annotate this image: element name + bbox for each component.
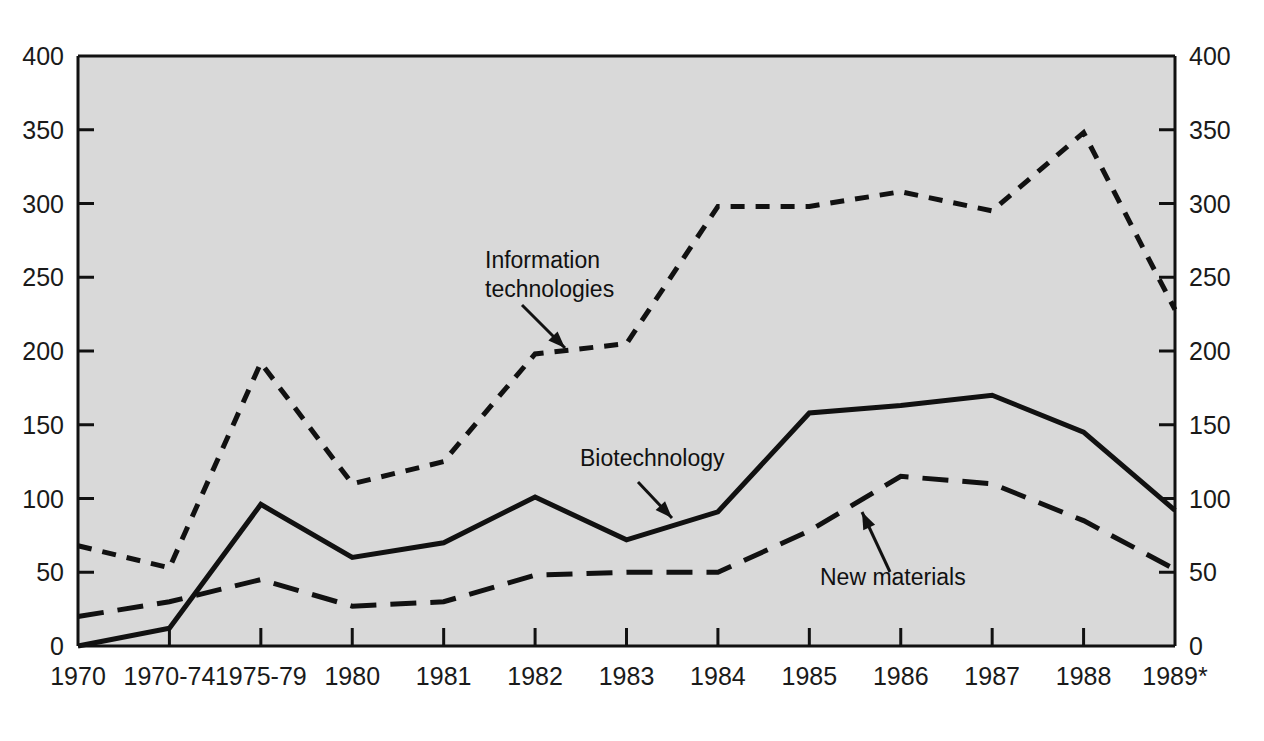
x-tick-label: 1981 — [416, 662, 472, 690]
left-y-tick-label: 350 — [22, 116, 64, 144]
line-chart: 050100150200250300350400 050100150200250… — [0, 0, 1264, 741]
right-y-tick-label: 150 — [1189, 411, 1231, 439]
left-y-tick-label: 300 — [22, 190, 64, 218]
right-y-tick-label: 250 — [1189, 263, 1231, 291]
annotation-label: New materials — [820, 564, 966, 590]
x-tick-label: 1985 — [782, 662, 838, 690]
left-y-tick-labels: 050100150200250300350400 — [22, 42, 64, 660]
x-tick-label: 1986 — [873, 662, 929, 690]
annotation-label: Information — [485, 247, 600, 273]
right-y-tick-labels: 050100150200250300350400 — [1189, 42, 1231, 660]
left-y-tick-label: 150 — [22, 411, 64, 439]
chart-figure: 050100150200250300350400 050100150200250… — [0, 0, 1264, 741]
right-y-tick-label: 200 — [1189, 337, 1231, 365]
x-tick-label: 1970 — [50, 662, 106, 690]
x-tick-label: 1982 — [507, 662, 563, 690]
right-y-tick-label: 400 — [1189, 42, 1231, 70]
x-tick-label: 1987 — [964, 662, 1020, 690]
plot-area-background — [78, 56, 1175, 646]
x-tick-labels: 19701970-741975-791980198119821983198419… — [50, 662, 1208, 690]
left-y-tick-label: 200 — [22, 337, 64, 365]
right-y-tick-label: 300 — [1189, 190, 1231, 218]
left-y-tick-label: 50 — [36, 558, 64, 586]
x-tick-label: 1970-74 — [124, 662, 216, 690]
left-y-tick-label: 250 — [22, 263, 64, 291]
left-y-tick-label: 0 — [50, 632, 64, 660]
x-tick-label: 1975-79 — [215, 662, 307, 690]
left-y-tick-label: 100 — [22, 485, 64, 513]
right-y-tick-label: 0 — [1189, 632, 1203, 660]
x-tick-label: 1983 — [599, 662, 655, 690]
annotation-label: technologies — [485, 276, 614, 302]
right-y-tick-label: 100 — [1189, 485, 1231, 513]
x-tick-label: 1989* — [1142, 662, 1208, 690]
x-tick-label: 1988 — [1056, 662, 1112, 690]
annotation-label: Biotechnology — [580, 445, 725, 471]
x-tick-label: 1984 — [690, 662, 746, 690]
right-y-tick-label: 350 — [1189, 116, 1231, 144]
x-tick-label: 1980 — [324, 662, 380, 690]
right-y-tick-label: 50 — [1189, 558, 1217, 586]
left-y-tick-label: 400 — [22, 42, 64, 70]
